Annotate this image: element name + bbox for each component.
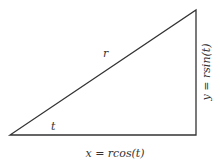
height-label: y = rsin(t) (200, 44, 213, 102)
angle-label: t (51, 120, 56, 133)
right-triangle (10, 10, 196, 135)
triangle-diagram: r t x = rcos(t) y = rsin(t) (0, 0, 220, 164)
base-label: x = rcos(t) (85, 147, 144, 160)
hypotenuse-label: r (103, 47, 109, 60)
